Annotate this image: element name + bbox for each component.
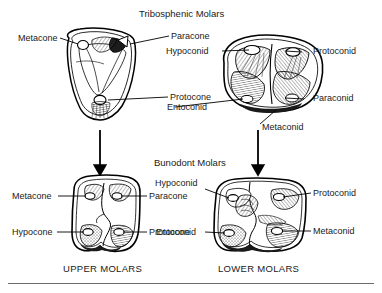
label-entoconid-bunodont: Entoconid	[156, 227, 196, 237]
molar-diagram-figure: Tribosphenic Molars Bunodont Molars Meta…	[0, 0, 382, 293]
label-metacone-tribosphenic: Metacone	[18, 33, 58, 43]
label-protoconid-tribosphenic: Protoconid	[313, 46, 356, 56]
title-bunodont: Bunodont Molars	[154, 157, 226, 168]
label-metaconid-bunodont: Metaconid	[313, 226, 355, 236]
label-protoconid-bunodont: Protoconid	[313, 188, 356, 198]
label-protocone-tribosphenic: Protocone	[170, 92, 211, 102]
label-hypoconid-tribosphenic: Hypoconid	[166, 46, 209, 56]
title-tribosphenic: Tribosphenic Molars	[139, 8, 224, 19]
diagram-artwork	[0, 0, 382, 293]
label-hypoconid-bunodont: Hypoconid	[155, 178, 198, 188]
label-entoconid-tribosphenic: Entoconid	[167, 102, 207, 112]
caption-lower-molars: LOWER MOLARS	[218, 263, 299, 274]
label-hypocone-bunodont: Hypocone	[12, 227, 53, 237]
label-paracone-tribosphenic: Paracone	[171, 31, 210, 41]
footer-rule	[8, 283, 374, 284]
bunodont-lower-molar-drawing	[214, 178, 306, 252]
label-metaconid-tribosphenic: Metaconid	[262, 122, 304, 132]
label-paracone-bunodont: Paracone	[149, 191, 188, 201]
label-metacone-bunodont: Metacone	[12, 191, 52, 201]
caption-upper-molars: UPPER MOLARS	[63, 263, 142, 274]
tribosphenic-upper-molar-drawing	[67, 28, 135, 120]
bunodont-upper-molar-drawing	[72, 175, 140, 251]
tribosphenic-lower-molar-drawing	[224, 35, 323, 113]
label-paraconid-tribosphenic: Paraconid	[313, 93, 354, 103]
